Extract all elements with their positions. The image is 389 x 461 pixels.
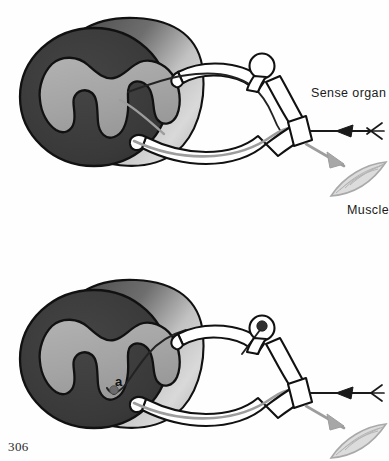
spinal-nerve-trunk-upper [266, 76, 304, 124]
muscle-shape-lower [331, 424, 386, 458]
page-number: 306 [8, 439, 29, 455]
dorsal-root-ganglion-upper [250, 54, 275, 79]
sense-organ-ending-lower [371, 385, 384, 401]
label-point-a: a [115, 374, 123, 389]
muscle-shape-upper [331, 162, 386, 196]
sensory-arrowhead-lower [336, 387, 353, 399]
ganglion-cell-body-lower [257, 321, 267, 331]
label-muscle: Muscle [347, 203, 389, 217]
label-sense-organ: Sense organ [311, 86, 386, 100]
lower-panel [20, 280, 386, 458]
sensory-arrowhead-upper [336, 125, 353, 137]
upper-panel [20, 18, 386, 196]
spinal-nerve-trunk-lower [266, 338, 304, 386]
